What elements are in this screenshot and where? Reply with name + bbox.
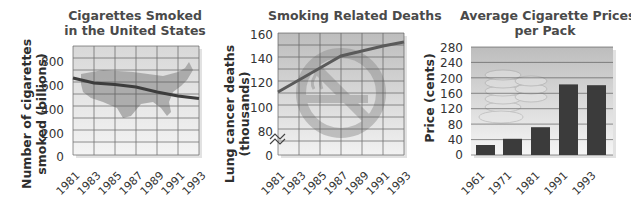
x-tick: 1981 xyxy=(513,170,542,199)
y-tick: 600 xyxy=(34,80,64,92)
y-tick: 400 xyxy=(34,104,64,116)
y-tick: 80 xyxy=(433,119,463,131)
bar-1991 xyxy=(559,84,578,155)
y-tick: 240 xyxy=(433,57,463,69)
x-tick: 1971 xyxy=(485,170,514,199)
x-tick: 1993 xyxy=(569,170,598,199)
y-tick: 120 xyxy=(433,103,463,115)
plot-area xyxy=(73,46,203,158)
ylabel-line-1: Number of cigarettes xyxy=(19,39,34,189)
x-tick: 1961 xyxy=(458,170,487,199)
plot-area xyxy=(471,47,619,159)
bar-1981 xyxy=(531,127,550,155)
chart-smoking-deaths: Smoking Related Deaths Lung cancer death… xyxy=(210,0,420,206)
y-tick: 80 xyxy=(243,126,273,138)
bar-1971 xyxy=(503,139,522,155)
chart-title: Average Cigarette Prices per Pack xyxy=(460,8,630,38)
y-tick: 800 xyxy=(34,56,64,68)
title-line-2: in the United States xyxy=(60,23,210,38)
y-tick: 40 xyxy=(433,134,463,146)
chart-cigarette-prices: Average Cigarette Prices per Pack Price … xyxy=(415,0,631,206)
y-tick: 100 xyxy=(243,102,273,114)
y-tick: 160 xyxy=(243,29,273,41)
bar-1993 xyxy=(587,85,606,155)
y-tick: 200 xyxy=(34,128,64,140)
title-line-1: Cigarettes Smoked xyxy=(60,8,210,23)
ylabel-line-1: Lung cancer deaths xyxy=(222,39,237,189)
y-tick: 0 xyxy=(243,150,273,162)
bar-1961 xyxy=(476,145,495,155)
title-line-1: Smoking Related Deaths xyxy=(268,8,418,23)
plot-area xyxy=(278,33,408,158)
y-tick: 160 xyxy=(433,88,463,100)
y-tick: 140 xyxy=(243,53,273,65)
x-tick: 1991 xyxy=(541,170,570,199)
title-line-1: Average Cigarette Prices xyxy=(460,8,630,23)
y-tick: 280 xyxy=(433,42,463,54)
chart-cigarettes-smoked: Cigarettes Smoked in the United States N… xyxy=(0,0,215,206)
chart-title: Cigarettes Smoked in the United States xyxy=(60,8,210,38)
y-tick: 120 xyxy=(243,77,273,89)
y-tick: 0 xyxy=(433,149,463,161)
title-line-2: per Pack xyxy=(460,23,630,38)
y-tick: 200 xyxy=(433,73,463,85)
y-tick: 0 xyxy=(34,151,64,163)
chart-title: Smoking Related Deaths xyxy=(268,8,418,23)
